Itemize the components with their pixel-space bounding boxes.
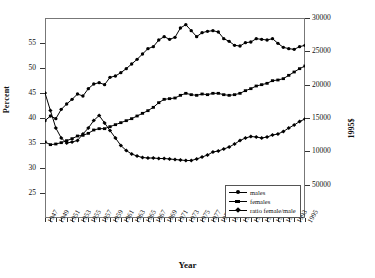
y-axis-left-tick-mark (40, 193, 45, 194)
data-point (287, 74, 290, 77)
data-point (195, 157, 199, 161)
data-point (244, 41, 247, 44)
data-point (282, 77, 285, 80)
data-point (265, 38, 268, 41)
data-point (276, 42, 279, 45)
data-point (184, 23, 187, 26)
data-point (130, 117, 133, 120)
data-point (103, 83, 106, 86)
y-axis-left-tick-label: 25 (10, 189, 36, 197)
data-point (76, 92, 79, 95)
data-point (270, 133, 274, 137)
y-axis-left-tick-mark (40, 43, 45, 44)
data-point (157, 101, 160, 104)
data-point (211, 29, 214, 32)
data-point (233, 44, 236, 47)
data-point (260, 38, 263, 41)
legend-marker-circle-icon (229, 189, 247, 196)
y-axis-left-title: Percent (1, 62, 13, 136)
data-point (184, 158, 188, 162)
data-point (157, 156, 161, 160)
legend-marker-square-icon (229, 198, 247, 205)
data-point (271, 37, 274, 40)
data-point (167, 157, 171, 161)
data-point (98, 127, 101, 130)
data-point (60, 141, 63, 144)
data-point (211, 92, 214, 95)
y-axis-right-tick-label: 10000 (312, 147, 331, 155)
data-point (119, 71, 122, 74)
data-point (303, 65, 305, 68)
data-point (141, 52, 144, 55)
data-point (238, 92, 241, 95)
data-point (205, 153, 209, 157)
x-axis-tick-label: 1995 (307, 209, 320, 225)
data-point (222, 147, 226, 151)
data-point (54, 126, 58, 130)
data-point (276, 79, 279, 82)
y-axis-left-tick-label: 30 (10, 164, 36, 172)
y-axis-right-tick-label: 20000 (312, 81, 331, 89)
data-point (276, 132, 280, 136)
data-point (152, 106, 155, 109)
data-point (254, 135, 258, 139)
data-point (152, 45, 155, 48)
y-axis-left-tick-mark (40, 93, 45, 94)
data-point (87, 87, 90, 90)
y-axis-left-tick-mark (40, 143, 45, 144)
data-point (135, 154, 139, 158)
y-axis-left-tick-mark (40, 168, 45, 169)
data-point (298, 67, 301, 70)
data-point (293, 71, 296, 74)
y-axis-right-tick-label: 50000 (312, 181, 331, 189)
data-point (87, 132, 90, 135)
legend-label-males: males (250, 189, 265, 196)
data-point (265, 135, 269, 139)
data-point (54, 143, 57, 146)
data-point (76, 135, 79, 138)
legend-marker-diamond-icon (229, 207, 247, 214)
y-axis-left-tick-mark (40, 68, 45, 69)
data-point (200, 31, 203, 34)
data-point (184, 92, 187, 95)
data-point (287, 47, 290, 50)
data-point (206, 93, 209, 96)
data-point (282, 46, 285, 49)
data-point (249, 40, 252, 43)
y-axis-left-tick-label: 40 (10, 114, 36, 122)
data-point (162, 35, 165, 38)
y-axis-right-title: 1995$ (344, 108, 358, 148)
data-point (260, 83, 263, 86)
data-point (222, 93, 225, 96)
data-point (49, 143, 52, 146)
data-point (146, 47, 149, 50)
data-point (211, 150, 215, 154)
data-point (162, 156, 166, 160)
legend-item-females: females (229, 197, 296, 206)
data-point (179, 94, 182, 97)
data-point (222, 37, 225, 40)
chart-legend: males females ratio female/male (225, 185, 301, 218)
data-point (108, 125, 111, 128)
data-point (119, 121, 122, 124)
data-point (146, 109, 149, 112)
y-axis-right-tick-mark (305, 18, 310, 19)
data-point (265, 82, 268, 85)
data-point (189, 158, 193, 162)
data-point (70, 98, 73, 101)
data-point (200, 93, 203, 96)
data-point (195, 35, 198, 38)
data-point (92, 129, 95, 132)
chart-figure: Percent 1995$ 25303540455055 50000100001… (0, 0, 375, 278)
series-ratio-female-male (45, 91, 305, 163)
y-axis-right-tick-mark (305, 85, 310, 86)
data-point (70, 140, 74, 144)
data-point (255, 85, 258, 88)
data-point (178, 158, 182, 162)
data-point (135, 58, 138, 61)
y-axis-right-title-text: 1995$ (347, 118, 356, 138)
data-point (130, 62, 133, 65)
data-point (217, 30, 220, 33)
data-point (141, 112, 144, 115)
data-point (70, 137, 73, 140)
